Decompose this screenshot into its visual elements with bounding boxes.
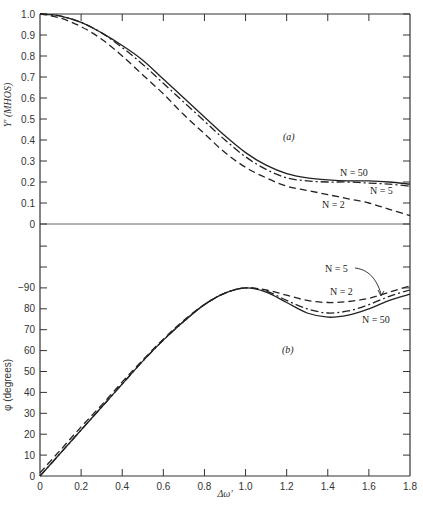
x-tick-label: 1.8 [403, 481, 417, 492]
curve-n50 [40, 14, 410, 184]
y-tick-label: 0 [29, 219, 35, 230]
n5-label-b: N = 5 [325, 263, 348, 274]
y-tick-label: 0.2 [21, 177, 35, 188]
chart-figure: 00.20.40.60.81.01.21.41.61.800.10.20.30.… [0, 0, 423, 506]
curve-n2 [40, 14, 410, 216]
y-tick-label: 80 [24, 303, 36, 314]
lower-plot-curves [40, 286, 410, 476]
plot-frame [40, 14, 410, 476]
y-tick-label: 0.8 [21, 51, 35, 62]
y-tick-label: 10 [24, 450, 36, 461]
x-tick-label: 0.8 [197, 481, 211, 492]
y-tick-label: 0.4 [21, 135, 35, 146]
y-tick-label: 0.5 [21, 114, 35, 125]
y-tick-label: 60 [24, 345, 36, 356]
axis-ticks [40, 14, 410, 476]
n2-label-a: N = 2 [322, 199, 345, 210]
curve-n50 [40, 288, 410, 476]
y-tick-label: 0.9 [21, 30, 35, 41]
upper-y-axis-label: Y' (MHOS) [2, 82, 14, 127]
y-tick-label: 30 [24, 408, 36, 419]
y-tick-label: 40 [24, 387, 36, 398]
upper-plot-curves [40, 14, 410, 216]
n5-label-a: N = 5 [370, 185, 393, 196]
lower-y-axis-label: φ (degrees) [2, 359, 13, 411]
y-tick-label: 70 [24, 324, 36, 335]
y-tick-label: 0 [29, 471, 35, 482]
y-tick-label: 0.3 [21, 156, 35, 167]
curve-n5 [40, 14, 410, 186]
y-tick-label: 1.0 [21, 9, 35, 20]
n5-pointer-arrow [355, 268, 381, 294]
n2-label-b: N = 2 [330, 286, 353, 297]
y-tick-label: 0.1 [21, 198, 35, 209]
x-tick-label: 0.2 [74, 481, 88, 492]
x-axis-label: Δω' [216, 488, 233, 499]
y-tick-label: 0.6 [21, 93, 35, 104]
y-tick-label: −90 [18, 282, 35, 293]
n50-label-b: N = 50 [362, 314, 390, 325]
y-tick-label: 0.7 [21, 72, 35, 83]
x-tick-label: 0 [37, 481, 43, 492]
panel-b-label: (b) [282, 344, 294, 356]
y-tick-label: 50 [24, 366, 36, 377]
x-tick-label: 1.2 [280, 481, 294, 492]
x-tick-label: 0.4 [115, 481, 129, 492]
y-tick-label: 20 [24, 429, 36, 440]
n50-label-a: N = 50 [340, 167, 368, 178]
panel-a-label: (a) [283, 131, 295, 143]
curve-n5 [40, 288, 410, 476]
x-tick-label: 1.0 [239, 481, 253, 492]
x-tick-label: 0.6 [156, 481, 170, 492]
x-tick-label: 1.4 [321, 481, 335, 492]
x-tick-label: 1.6 [362, 481, 376, 492]
tick-labels: 00.20.40.60.81.01.21.41.61.800.10.20.30.… [18, 9, 417, 493]
